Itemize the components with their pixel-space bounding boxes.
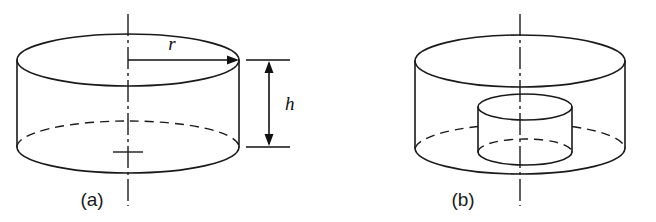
- height-arrowhead-top-a: [265, 61, 274, 73]
- height-arrowhead-bottom-a: [265, 134, 274, 146]
- caption-a: (a): [80, 189, 103, 210]
- inner-cylinder-bottom-hidden-arc-b: [478, 139, 572, 152]
- height-label: h: [285, 93, 295, 114]
- caption-b: (b): [451, 189, 474, 210]
- radius-arrowhead-a: [227, 56, 239, 65]
- panel-b: (b): [415, 14, 625, 210]
- radius-label: r: [168, 33, 176, 54]
- inner-cylinder-top-ellipse-b: [478, 94, 572, 120]
- outer-cylinder-bottom-hidden-arc-left-b: [415, 127, 478, 149]
- figure-container: r h (a): [0, 0, 656, 222]
- outer-cylinder-bottom-hidden-arc-right-b: [572, 127, 625, 149]
- cylinder-figure-svg: r h (a): [0, 0, 656, 222]
- panel-a: r h (a): [17, 14, 295, 210]
- inner-cylinder-bottom-front-arc-b: [478, 152, 572, 165]
